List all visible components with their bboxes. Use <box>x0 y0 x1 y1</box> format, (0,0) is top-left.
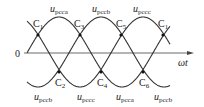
crossing-points-group: C1C3C5C1C2C4C6 <box>33 18 169 90</box>
top-wave-label: upccb <box>92 3 111 16</box>
crossing-point-dot-icon <box>99 70 102 73</box>
origin-label: 0 <box>15 48 20 59</box>
bottom-wave-label: upcca <box>116 91 135 104</box>
crossing-point-dot-icon <box>78 33 81 36</box>
crossing-point-dot-icon <box>119 33 122 36</box>
x-axis-label: ωt <box>178 57 188 68</box>
crossing-point-label: C6 <box>139 77 150 90</box>
bottom-wave-label: upccc <box>77 91 95 104</box>
crossing-point-dot-icon <box>57 70 60 73</box>
crossing-point-label: C4 <box>97 77 108 90</box>
bottom-wave-label: upccb <box>154 91 173 104</box>
top-wave-label: upccc <box>133 3 151 16</box>
crossing-point-dot-icon <box>36 33 39 36</box>
waveform-diagram: 0 ωt C1C3C5C1C2C4C6 upccaupccbupcccupccb… <box>0 0 204 107</box>
x-axis-arrow-icon <box>187 51 194 55</box>
top-wave-label: upcca <box>50 3 69 16</box>
crossing-point-dot-icon <box>161 33 164 36</box>
crossing-point-dot-icon <box>141 70 144 73</box>
crossing-point-label: C2 <box>55 77 66 90</box>
bottom-wave-label: upccb <box>34 91 53 104</box>
